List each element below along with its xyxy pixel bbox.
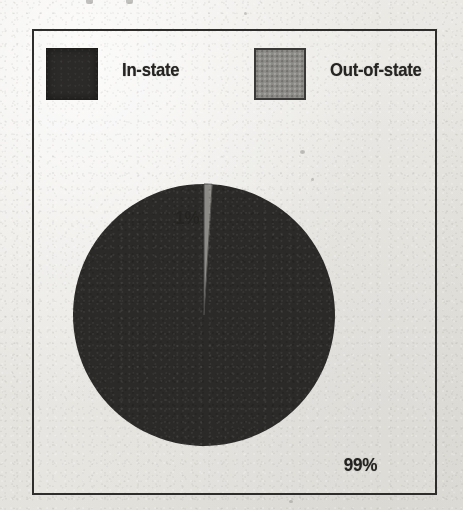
cropped-headline-artifact <box>0 0 463 10</box>
scan-smudge <box>244 12 247 15</box>
pie-chart <box>72 183 336 447</box>
pie-value-label-in-state: 99% <box>344 454 377 476</box>
gray-square-swatch-icon <box>254 48 306 100</box>
scan-smudge <box>289 500 293 503</box>
pie-chart-svg <box>72 183 336 447</box>
chart-frame-border: In-state Out-of-state 1% 99% <box>32 29 437 495</box>
dark-square-swatch-icon <box>46 48 98 100</box>
legend-label-out-of-state: Out-of-state <box>330 59 422 81</box>
pie-value-label-out-of-state: 1% <box>175 207 199 229</box>
scanned-chart-page: In-state Out-of-state 1% 99% <box>0 0 463 510</box>
legend-label-in-state: In-state <box>122 59 179 81</box>
chart-legend: In-state Out-of-state <box>34 31 439 121</box>
